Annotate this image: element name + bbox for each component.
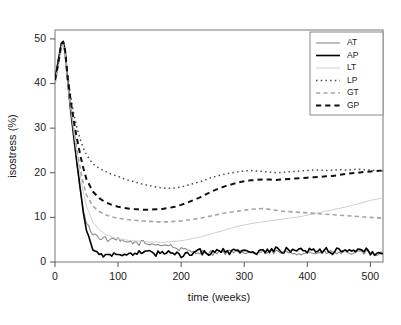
legend-label-AP: AP xyxy=(347,50,359,60)
x-tick-label-0: 0 xyxy=(52,270,58,282)
x-axis-title: time (weeks) xyxy=(188,291,250,303)
x-tick-label-100: 100 xyxy=(109,270,127,282)
legend-label-GT: GT xyxy=(347,87,359,97)
y-tick-label-50: 50 xyxy=(34,32,46,44)
legend-label-LT: LT xyxy=(347,62,356,72)
y-tick-label-20: 20 xyxy=(34,166,46,178)
y-tick-label-0: 0 xyxy=(40,255,46,267)
legend-label-LP: LP xyxy=(347,75,358,85)
isostress-time-chart: 010203040500100200300400500time (weeks)i… xyxy=(0,0,401,325)
y-tick-label-40: 40 xyxy=(34,76,46,88)
x-tick-label-400: 400 xyxy=(299,270,317,282)
legend-label-GP: GP xyxy=(347,100,360,110)
x-tick-label-200: 200 xyxy=(172,270,190,282)
legend-label-AT: AT xyxy=(347,37,357,47)
x-tick-label-300: 300 xyxy=(235,270,253,282)
y-tick-label-30: 30 xyxy=(34,121,46,133)
y-axis-title: isostress (%) xyxy=(6,114,18,178)
x-tick-label-500: 500 xyxy=(362,270,380,282)
y-tick-label-10: 10 xyxy=(34,210,46,222)
chart-canvas: 010203040500100200300400500time (weeks)i… xyxy=(0,0,401,325)
